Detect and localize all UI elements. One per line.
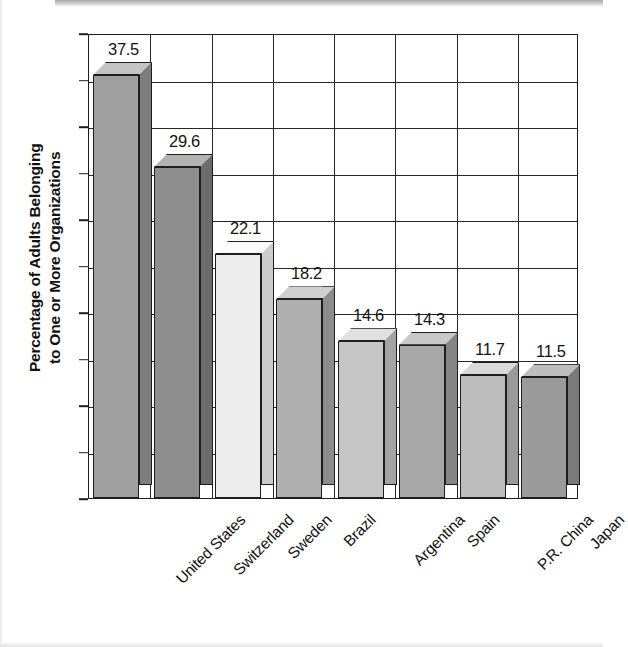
x-axis-label: Spain	[463, 511, 503, 551]
bar[interactable]	[154, 154, 200, 498]
bar-value-label: 37.5	[108, 40, 139, 59]
bar[interactable]	[276, 286, 322, 498]
y-axis-tick-mark	[79, 452, 88, 454]
bar-value-label: 11.5	[536, 342, 566, 361]
bar[interactable]	[399, 332, 445, 498]
x-axis-label: P.R. China	[534, 511, 597, 574]
y-axis-tick-mark	[79, 266, 88, 268]
y-axis-title: Percentage of Adults Belonging to One or…	[25, 43, 65, 473]
y-axis-tick-mark	[79, 80, 88, 82]
bar-side-face	[261, 241, 274, 485]
bar-side-face	[322, 286, 335, 485]
y-axis-tick-mark	[79, 359, 88, 361]
bar[interactable]	[93, 62, 139, 498]
bar-value-label: 29.6	[169, 132, 200, 151]
y-axis-tick-mark	[79, 173, 88, 175]
bar-front-face	[460, 375, 506, 498]
bar-front-face	[93, 75, 139, 498]
bar[interactable]	[338, 328, 384, 498]
bar-front-face	[338, 341, 384, 498]
gridline-horizontal	[89, 82, 577, 83]
bar-value-label: 11.7	[475, 340, 505, 359]
x-axis-label: United States	[172, 511, 249, 588]
bar-value-label: 22.1	[230, 219, 261, 238]
x-axis-label: Brazil	[340, 511, 379, 550]
bar-side-face	[567, 364, 580, 485]
bar-value-label: 14.6	[353, 306, 384, 325]
y-axis-tick-mark	[79, 405, 88, 407]
bar-side-face	[139, 62, 152, 485]
bar-side-face	[445, 332, 458, 485]
bar[interactable]	[215, 241, 261, 498]
bar-front-face	[215, 254, 261, 498]
y-axis-tick-mark	[79, 498, 88, 500]
y-axis-tick-mark	[79, 312, 88, 314]
bar-value-label: 14.3	[414, 310, 445, 329]
x-axis-label: Japan	[586, 511, 628, 553]
bar-side-face	[200, 154, 213, 485]
y-axis-tick-mark	[79, 33, 88, 35]
plot-area	[88, 34, 578, 499]
gridline-horizontal	[89, 128, 577, 129]
bar-front-face	[399, 345, 445, 498]
bar-front-face	[276, 299, 322, 498]
y-axis-tick-mark	[79, 219, 88, 221]
bar[interactable]	[460, 362, 506, 498]
bar-value-label: 18.2	[291, 264, 322, 283]
bar-front-face	[154, 167, 200, 498]
y-axis-tick-mark	[79, 126, 88, 128]
x-axis-label: Argentina	[410, 511, 468, 569]
bar[interactable]	[521, 364, 567, 498]
bar-side-face	[506, 362, 519, 485]
bar-front-face	[521, 377, 567, 498]
bar-side-face	[384, 328, 397, 485]
